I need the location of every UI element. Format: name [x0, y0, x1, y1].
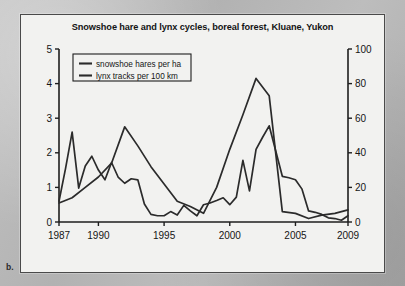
x-axis-tick-label: 1987 — [48, 230, 71, 241]
figure-panel: Snowshoe hare and lynx cycles, boreal fo… — [20, 14, 385, 273]
legend-label: lynx tracks per 100 km — [96, 72, 178, 81]
chart-legend: snowshoe hares per halynx tracks per 100… — [73, 54, 191, 81]
x-axis-tick-label: 1990 — [87, 230, 110, 241]
panel-letter: b. — [6, 262, 14, 272]
y-axis-left-tick-label: 1 — [46, 182, 52, 193]
x-axis-tick-label: 2009 — [337, 230, 360, 241]
y-axis-right-tick-label: 20 — [355, 182, 367, 193]
y-axis-left-tick-label: 5 — [46, 44, 52, 55]
y-axis-left-tick-label: 2 — [46, 147, 52, 158]
legend-label: snowshoe hares per ha — [96, 60, 182, 69]
line-chart-plot: 0123450204060801001987199019952000200520… — [21, 15, 386, 274]
x-axis-tick-label: 1995 — [153, 230, 176, 241]
y-axis-right-tick-label: 60 — [355, 113, 367, 124]
y-axis-right-tick-label: 40 — [355, 147, 367, 158]
y-axis-left-tick-label: 0 — [46, 217, 52, 228]
y-axis-right-tick-label: 100 — [355, 44, 372, 55]
y-axis-right-tick-label: 0 — [355, 217, 361, 228]
chart-series-group — [59, 78, 348, 220]
y-axis-left-tick-label: 4 — [46, 78, 52, 89]
x-axis-tick-label: 2005 — [284, 230, 307, 241]
y-axis-left-tick-label: 3 — [46, 113, 52, 124]
x-axis-tick-label: 2000 — [219, 230, 242, 241]
y-axis-right-tick-label: 80 — [355, 78, 367, 89]
